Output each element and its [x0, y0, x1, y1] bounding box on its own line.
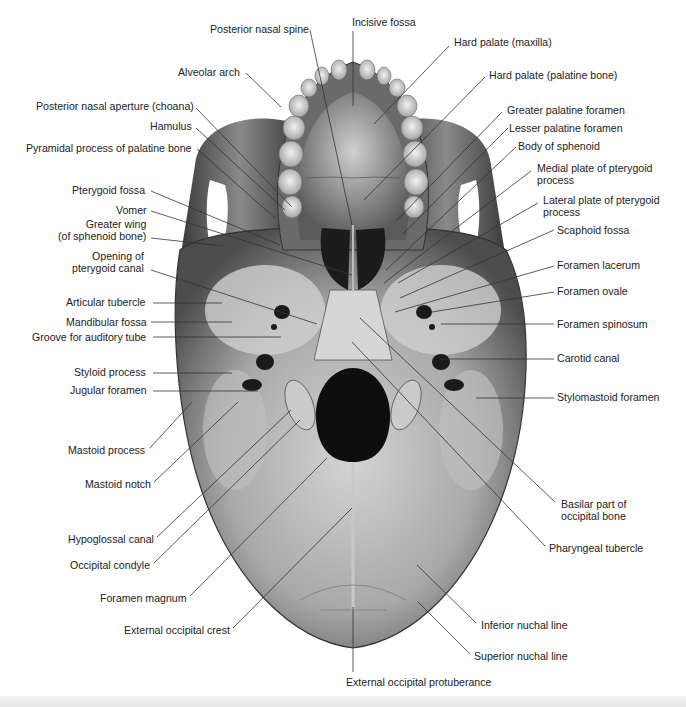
label-vomer: Vomer	[116, 204, 147, 216]
label-mandibular-fossa: Mandibular fossa	[66, 316, 147, 328]
label-hard-palate-palatine: Hard palate (palatine bone)	[489, 69, 617, 81]
label-pharyngeal-tubercle: Pharyngeal tubercle	[549, 542, 643, 554]
label-lesser-palatine-foramen: Lesser palatine foramen	[509, 122, 623, 134]
label-posterior-nasal-spine: Posterior nasal spine	[210, 23, 309, 35]
label-incisive-fossa: Incisive fossa	[352, 16, 416, 28]
label-carotid-canal: Carotid canal	[557, 352, 619, 364]
leader-line-alveolar-arch	[246, 73, 281, 107]
label-pterygoid-fossa: Pterygoid fossa	[72, 184, 145, 196]
label-greater-palatine-foramen: Greater palatine foramen	[507, 104, 625, 116]
label-foramen-spinosum: Foramen spinosum	[557, 318, 648, 330]
label-external-occipital-crest: External occipital crest	[124, 624, 230, 636]
label-body-of-sphenoid: Body of sphenoid	[518, 140, 600, 152]
label-jugular-foramen: Jugular foramen	[70, 384, 147, 396]
label-stylomastoid-foramen: Stylomastoid foramen	[557, 391, 659, 403]
skull-inferior-view-diagram: Posterior nasal spineAlveolar archPoster…	[0, 0, 686, 707]
foramen-magnum-shape	[316, 368, 390, 462]
label-lateral-plate: Lateral plate of pterygoidprocess	[543, 194, 660, 218]
label-pyramidal-process: Pyramidal process of palatine bone	[26, 142, 191, 154]
label-greater-wing: Greater wing(of sphenoid bone)	[58, 218, 146, 242]
label-groove-auditory-tube: Groove for auditory tube	[32, 331, 146, 343]
label-opening-pterygoid-canal: Opening ofpterygoid canal	[72, 250, 144, 274]
label-occipital-condyle: Occipital condyle	[70, 559, 150, 571]
label-hard-palate-maxilla: Hard palate (maxilla)	[454, 36, 552, 48]
bottom-edge	[0, 696, 686, 707]
label-basilar-part: Basilar part ofoccipital bone	[561, 498, 626, 522]
label-hypoglossal-canal: Hypoglossal canal	[68, 533, 154, 545]
label-hamulus: Hamulus	[150, 120, 192, 132]
label-mastoid-process: Mastoid process	[68, 444, 145, 456]
label-superior-nuchal-line: Superior nuchal line	[474, 650, 568, 662]
label-mastoid-notch: Mastoid notch	[85, 478, 151, 490]
label-medial-plate: Medial plate of pterygoidprocess	[537, 162, 652, 186]
label-articular-tubercle: Articular tubercle	[66, 296, 145, 308]
label-foramen-lacerum: Foramen lacerum	[557, 259, 640, 271]
label-inferior-nuchal-line: Inferior nuchal line	[481, 619, 568, 631]
label-external-occipital-protuberance: External occipital protuberance	[346, 676, 491, 688]
label-foramen-magnum: Foramen magnum	[100, 592, 187, 604]
label-foramen-ovale: Foramen ovale	[557, 285, 628, 297]
label-alveolar-arch: Alveolar arch	[178, 66, 240, 78]
label-styloid-process: Styloid process	[74, 366, 146, 378]
label-posterior-nasal-aperture: Posterior nasal aperture (choana)	[36, 100, 194, 112]
label-scaphoid-fossa: Scaphoid fossa	[557, 224, 629, 236]
